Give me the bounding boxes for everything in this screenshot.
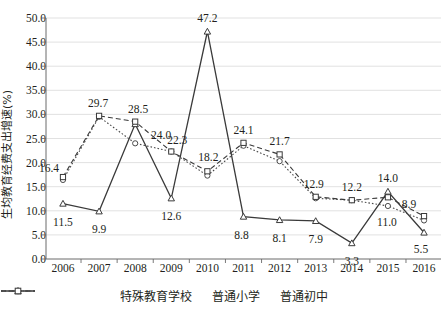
data-point-marker <box>277 159 282 164</box>
data-label: 5.5 <box>414 243 428 255</box>
data-label: 21.7 <box>270 135 290 147</box>
data-point-marker <box>385 195 390 200</box>
data-point-marker <box>277 152 282 157</box>
data-point-marker <box>204 28 210 34</box>
data-point-marker <box>60 200 66 206</box>
data-point-marker <box>168 195 174 201</box>
data-label: 12.9 <box>304 178 324 190</box>
data-label: 8.1 <box>272 232 286 244</box>
chart-legend: 特殊教育学校普通小学普通初中 <box>0 284 448 306</box>
data-point-marker <box>385 203 390 208</box>
data-point-marker <box>205 169 210 174</box>
data-label: 22.3 <box>167 134 187 146</box>
data-label: 18.2 <box>198 151 218 163</box>
legend-swatch <box>0 284 36 298</box>
data-point-marker <box>133 119 138 124</box>
data-point-marker <box>313 194 318 199</box>
data-point-marker <box>133 141 138 146</box>
legend-label: 普通小学 <box>212 287 260 304</box>
data-point-marker <box>385 188 391 194</box>
x-tick-label: 2016 <box>402 262 446 274</box>
data-label: 3.3 <box>345 255 359 267</box>
data-label: 12.6 <box>161 210 181 222</box>
data-point-marker <box>241 140 246 145</box>
legend-item-1[interactable]: 普通小学 <box>212 287 260 304</box>
data-label: 16.4 <box>39 162 59 174</box>
data-label: 12.2 <box>342 181 362 193</box>
chart-container: 生均教育经费支出增速(%) 0.05.010.015.020.025.030.0… <box>0 0 448 309</box>
data-point-marker <box>96 113 101 118</box>
data-label: 9.9 <box>92 223 106 235</box>
data-point-marker <box>421 214 426 219</box>
data-label: 11.5 <box>53 216 73 228</box>
data-point-marker <box>349 198 354 203</box>
legend-label: 特殊教育学校 <box>120 287 192 304</box>
data-label: 11.0 <box>377 216 397 228</box>
data-point-marker <box>60 174 65 179</box>
legend-item-0[interactable]: 特殊教育学校 <box>120 287 192 304</box>
data-label: 29.7 <box>88 97 108 109</box>
data-label: 28.5 <box>128 103 148 115</box>
legend-label: 普通初中 <box>280 287 328 304</box>
legend-item-2[interactable]: 普通初中 <box>280 287 328 304</box>
data-label: 8.8 <box>234 229 248 241</box>
series-line-0 <box>63 31 424 243</box>
data-label: 24.1 <box>233 124 253 136</box>
data-label: 7.9 <box>309 233 323 245</box>
data-label: 47.2 <box>197 12 217 24</box>
data-label: 14.0 <box>378 172 398 184</box>
data-label: 8.9 <box>402 198 416 210</box>
data-point-marker <box>169 149 174 154</box>
